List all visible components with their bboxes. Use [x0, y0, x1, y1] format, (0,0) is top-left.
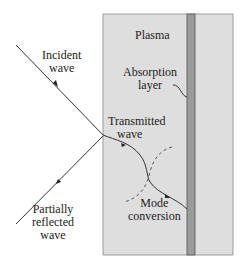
absorption-layer-label: Absorption layer: [123, 66, 177, 92]
reflected-wave-label: Partially reflected wave: [32, 203, 74, 242]
reflected-label-line3: wave: [32, 229, 74, 242]
plasma-label: Plasma: [135, 29, 170, 42]
mode-conversion-label: Mode conversion: [128, 197, 181, 223]
incident-label-line2: wave: [42, 62, 81, 75]
transmitted-label-line2: wave: [94, 128, 166, 141]
absorption-label-line2: layer: [123, 79, 177, 92]
transmitted-wave-label: Transmitted wave: [108, 115, 166, 141]
incident-wave-label: Incident wave: [42, 49, 81, 75]
mode-conversion-label-line2: conversion: [128, 210, 181, 223]
absorption-layer: [187, 14, 195, 255]
